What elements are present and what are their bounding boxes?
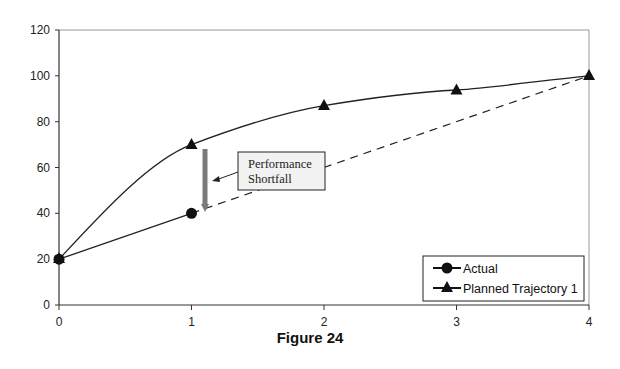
x-ticks: 0 1 2 3 4 bbox=[56, 305, 593, 329]
actual-line bbox=[59, 213, 192, 259]
x-tick-label: 0 bbox=[56, 315, 63, 329]
figure-caption: Figure 24 bbox=[0, 329, 620, 346]
x-tick-label: 3 bbox=[453, 315, 460, 329]
y-ticks: 0 20 40 60 80 100 120 bbox=[30, 23, 59, 312]
circle-marker-icon bbox=[54, 254, 65, 265]
legend-label-actual: Actual bbox=[463, 262, 498, 276]
annotation-line-2: Shortfall bbox=[248, 172, 292, 186]
y-tick-label: 60 bbox=[37, 161, 51, 175]
line-chart: 0 20 40 60 80 100 120 0 1 2 3 4 bbox=[0, 0, 620, 369]
legend: Actual Planned Trajectory 1 bbox=[423, 256, 584, 301]
y-tick-label: 100 bbox=[30, 69, 50, 83]
circle-marker-icon bbox=[186, 208, 197, 219]
y-tick-label: 120 bbox=[30, 23, 50, 37]
x-tick-label: 2 bbox=[321, 315, 328, 329]
arrow-left-icon bbox=[212, 176, 220, 182]
circle-marker-icon bbox=[442, 263, 453, 274]
y-tick-label: 20 bbox=[37, 252, 51, 266]
legend-label-planned: Planned Trajectory 1 bbox=[463, 282, 578, 296]
shortfall-bar bbox=[201, 149, 209, 212]
y-tick-label: 0 bbox=[43, 298, 50, 312]
y-tick-label: 80 bbox=[37, 115, 51, 129]
annotation-line-1: Performance bbox=[248, 157, 312, 171]
annotation-box: Performance Shortfall bbox=[238, 152, 325, 190]
y-tick-label: 40 bbox=[37, 206, 51, 220]
triangle-marker-icon bbox=[451, 84, 463, 95]
x-tick-label: 4 bbox=[586, 315, 593, 329]
triangle-marker-icon bbox=[583, 69, 595, 80]
x-tick-label: 1 bbox=[188, 315, 195, 329]
